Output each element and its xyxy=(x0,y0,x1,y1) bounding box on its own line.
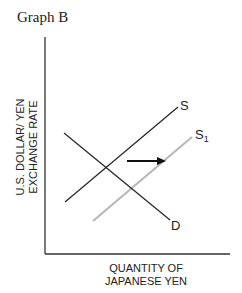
x-axis-label-line2: JAPANESE YEN xyxy=(105,275,187,287)
supply-curve xyxy=(65,107,178,202)
supply-shifted-label-sub: 1 xyxy=(204,134,209,144)
y-axis-label-line1: U.S. DOLLAR/ YEN xyxy=(14,98,26,195)
supply-shifted-label-base: S xyxy=(195,127,204,142)
y-axis-label-line2: EXCHANGE RATE xyxy=(27,100,39,193)
supply-demand-diagram: S S1 D U.S. DOLLAR/ YEN EXCHANGE RATE QU… xyxy=(0,0,242,293)
supply-label: S xyxy=(180,98,189,113)
x-axis-label-line1: QUANTITY OF xyxy=(109,262,183,274)
supply-shifted-label: S1 xyxy=(195,127,209,144)
supply-shifted-curve xyxy=(93,137,192,221)
demand-curve xyxy=(64,133,170,220)
demand-label: D xyxy=(171,218,180,233)
